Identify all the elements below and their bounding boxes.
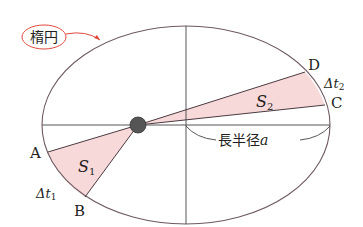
kepler-second-law-diagram: 楕円 A B C D S1 S2 Δt1 Δt2 長半径a [0, 0, 363, 227]
time-dt1-label: Δt1 [35, 186, 56, 202]
time-dt2-label: Δt2 [323, 76, 344, 92]
sector-s2 [138, 72, 325, 125]
point-D-label: D [308, 56, 320, 74]
semi-major-axis-label: 長半径a [218, 132, 268, 148]
callout-arrowhead [94, 35, 100, 40]
callout-arrow [66, 33, 100, 40]
point-B-label: B [74, 202, 85, 220]
point-A-label: A [29, 144, 41, 162]
point-C-label: C [331, 94, 342, 112]
ellipse-label: 楕円 [30, 29, 58, 45]
sun-icon [130, 117, 146, 133]
diagram-svg: 楕円 A B C D S1 S2 Δt1 Δt2 長半径a [0, 0, 363, 227]
